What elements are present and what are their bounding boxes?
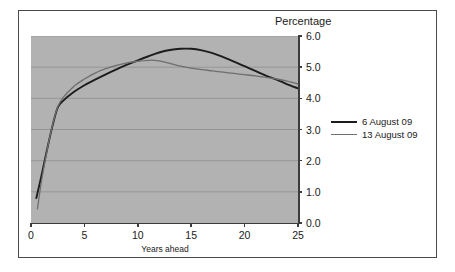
- y-tick-mark: [298, 160, 302, 162]
- y-tick-label: 3.0: [306, 125, 321, 135]
- y-tick-mark: [298, 129, 302, 131]
- y-tick-label: 2.0: [306, 156, 321, 166]
- series-line-1: [36, 49, 298, 198]
- chart-title: Percentage: [275, 15, 331, 27]
- x-axis-title: Years ahead: [31, 244, 299, 254]
- y-tick-mark: [298, 98, 302, 100]
- x-tick-mark: [190, 223, 192, 227]
- gridlines: [31, 36, 298, 192]
- x-tick-mark: [84, 223, 86, 227]
- y-tick-label: 1.0: [306, 187, 321, 197]
- x-tick-label: 10: [123, 230, 153, 241]
- x-tick-label: 15: [176, 230, 206, 241]
- x-tick-label: 5: [69, 230, 99, 241]
- y-tick-label: 5.0: [306, 62, 321, 72]
- plot-svg: [31, 36, 298, 223]
- series-lines: [36, 49, 298, 209]
- y-tick-label: 4.0: [306, 93, 321, 103]
- y-tick-mark: [298, 35, 302, 37]
- legend-item-2: 13 August 09: [331, 128, 417, 141]
- x-tick-mark: [30, 223, 32, 227]
- y-tick-label: 0.0: [306, 218, 321, 228]
- x-tick-label: 0: [16, 230, 46, 241]
- legend-item-1: 6 August 09: [331, 115, 417, 128]
- y-tick-mark: [298, 191, 302, 193]
- chart-legend: 6 August 0913 August 09: [331, 115, 417, 141]
- x-tick-mark: [244, 223, 246, 227]
- legend-item-label: 13 August 09: [362, 129, 417, 140]
- legend-line-icon: [331, 121, 357, 123]
- x-tick-mark: [137, 223, 139, 227]
- x-tick-label: 20: [230, 230, 260, 241]
- y-tick-mark: [298, 66, 302, 68]
- y-tick-label: 6.0: [306, 31, 321, 41]
- x-tick-label: 25: [283, 230, 313, 241]
- chart-figure: Percentage 0.01.02.03.04.05.06.0 0510152…: [18, 10, 437, 258]
- plot-area: [31, 36, 298, 223]
- series-line-2: [37, 60, 298, 209]
- legend-item-label: 6 August 09: [362, 116, 412, 127]
- x-axis-line: [31, 223, 299, 225]
- legend-line-icon: [331, 134, 357, 135]
- x-tick-mark: [297, 223, 299, 227]
